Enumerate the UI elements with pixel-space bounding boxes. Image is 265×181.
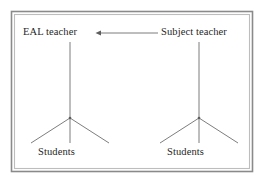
node-label-eal-teacher: EAL teacher [23, 27, 77, 38]
left-apex-node [69, 117, 72, 120]
left-fan-leg-outer-left [31, 118, 70, 143]
right-apex-node [198, 117, 201, 120]
right-fan-leg-outer-left [160, 118, 199, 143]
diagram-figure: EAL teacher Subject teacher Students Stu… [0, 0, 265, 181]
right-fan-leg-outer-right [199, 118, 238, 143]
node-label-students-left: Students [38, 147, 75, 158]
arrow-head-left-icon [96, 31, 102, 36]
node-label-students-right: Students [167, 147, 204, 158]
node-label-subject-teacher: Subject teacher [161, 27, 227, 38]
left-fan-leg-outer-right [70, 118, 109, 143]
